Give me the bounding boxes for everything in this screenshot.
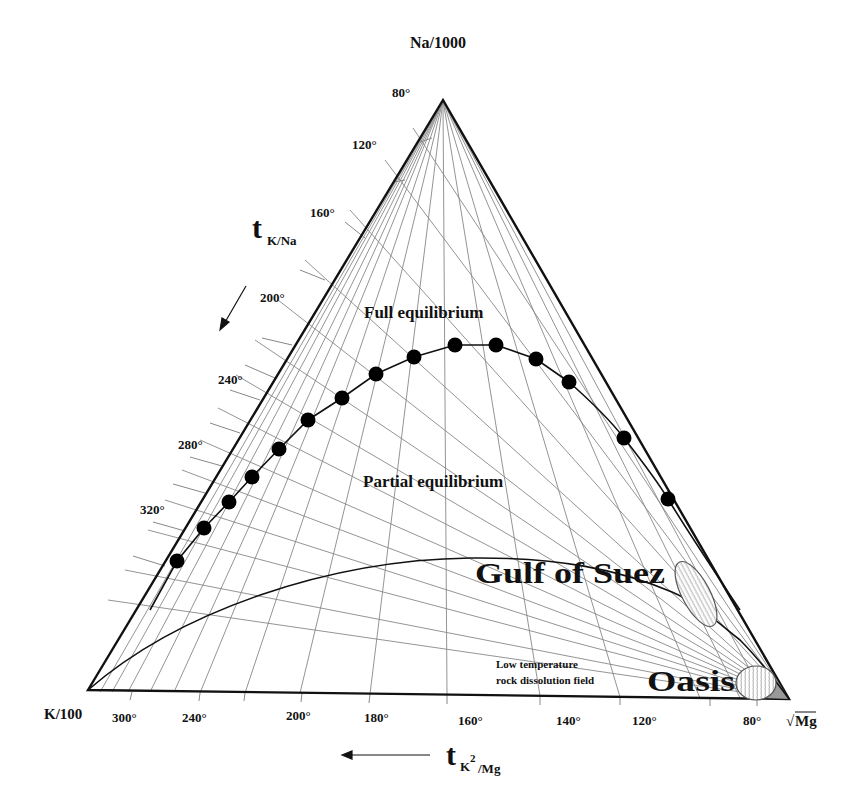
data-point — [197, 521, 212, 536]
tick-label: 300° — [112, 710, 137, 725]
gulf-of-suez-label: Gulf of Suez — [475, 556, 665, 589]
data-point — [562, 375, 577, 390]
data-point — [407, 350, 422, 365]
tick-label: 200° — [286, 708, 311, 723]
data-point — [448, 338, 463, 353]
data-point — [369, 367, 384, 382]
bottom-axis-subscript-mg: /Mg — [477, 761, 501, 776]
vertex-label-k: K/100 — [44, 706, 82, 722]
data-point — [245, 470, 260, 485]
tick-label: 120° — [632, 713, 657, 728]
data-point — [617, 431, 632, 446]
bottom-axis-tick-labels: 300° 240° 200° 180° 160° 140° 120° 80° — [112, 708, 761, 728]
left-axis-subscript: K/Na — [267, 233, 297, 248]
low-temperature-label-line2: rock dissolution field — [496, 674, 594, 686]
tick-label: 200° — [260, 290, 285, 305]
tick-label: 80° — [392, 85, 410, 100]
tick-label: 140° — [556, 713, 581, 728]
giggenbach-ternary-diagram: Na/1000 K/100 √ Mg 80° 120° 160° 200° 24… — [0, 0, 857, 803]
full-equilibrium-label: Full equilibrium — [364, 303, 484, 322]
k-mg-isotherm-lines — [100, 100, 765, 698]
data-point — [222, 495, 237, 510]
data-point — [335, 391, 350, 406]
left-axis-ticks — [133, 138, 432, 566]
tick-label: 180° — [364, 710, 389, 725]
vertex-label-mg-root: √ — [786, 713, 795, 729]
low-temperature-label-line1: Low temperature — [496, 658, 578, 670]
tick-label: 240° — [182, 710, 207, 725]
tick-label: 320° — [140, 502, 165, 517]
vertex-label-mg: Mg — [795, 713, 817, 729]
tick-label: 120° — [352, 137, 377, 152]
tick-label: 160° — [310, 205, 335, 220]
data-point — [661, 492, 676, 507]
tick-label: 240° — [218, 372, 243, 387]
data-point — [272, 442, 287, 457]
bottom-axis-arrow — [342, 751, 430, 759]
ternary-triangle — [88, 100, 789, 699]
bottom-axis-subscript-sup: 2 — [470, 752, 476, 764]
data-point — [529, 352, 544, 367]
partial-equilibrium-label: Partial equilibrium — [363, 472, 503, 491]
left-axis-title: t — [252, 211, 262, 244]
left-axis-arrow — [220, 286, 246, 330]
oasis-field — [736, 666, 776, 700]
tick-label: 80° — [743, 713, 761, 728]
oasis-label: Oasis — [647, 664, 735, 697]
data-point — [301, 413, 316, 428]
tick-label: 280° — [178, 437, 203, 452]
bottom-axis-title: t — [446, 738, 456, 771]
data-point — [170, 554, 185, 569]
tick-label: 160° — [458, 713, 483, 728]
vertex-label-na: Na/1000 — [410, 34, 466, 51]
data-point — [489, 338, 504, 353]
